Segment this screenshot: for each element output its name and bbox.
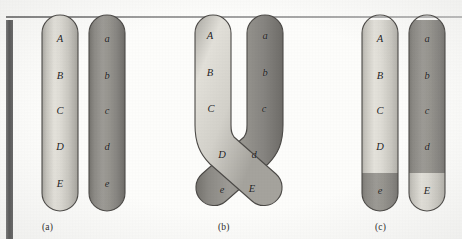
chromatid-diagram-svg — [0, 0, 462, 239]
panel-c-chromatids — [360, 15, 449, 221]
chromatid-a-light — [42, 15, 78, 211]
panel-caption-b: (b) — [218, 222, 230, 232]
crossing-over-figure: ABCDEabcdeABCDEabcdeABCDeabcdE (a)(b)(c) — [0, 0, 462, 239]
panel-caption-c: (c) — [375, 222, 386, 232]
panel-b-chromatids — [195, 15, 283, 206]
panel-a-chromatids — [42, 15, 125, 211]
chromatid-a-dark — [89, 15, 125, 211]
panel-caption-a: (a) — [42, 222, 53, 232]
